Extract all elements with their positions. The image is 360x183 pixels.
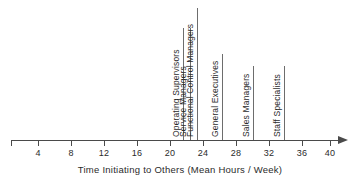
x-axis-arrowhead [338,136,348,144]
axis-tick [170,140,171,146]
axis-tick-label: 12 [92,148,116,158]
x-axis-line [11,140,342,141]
axis-tick-label: 8 [59,148,83,158]
axis-tick-label: 32 [257,148,281,158]
axis-tick [236,140,237,146]
axis-tick-label: 4 [26,148,50,158]
axis-tick [137,140,138,146]
axis-tick [203,140,204,146]
axis-tick [71,140,72,146]
axis-tick-label: 20 [158,148,182,158]
category-leader-line [284,66,285,140]
axis-tick [38,140,39,146]
axis-tick [104,140,105,146]
category-leader-line [197,8,198,140]
category-leader-line [222,54,223,140]
axis-tick [269,140,270,146]
axis-tick-label: 40 [318,148,342,158]
axis-tick-label: 24 [191,148,215,158]
category-label-staff-specialists: Staff Specialists [273,74,282,137]
category-label-functional-control-managers: Functional Control Managers [186,24,195,137]
category-leader-line [253,66,254,140]
axis-tick [302,140,303,146]
category-label-sales-managers: Sales Managers [242,73,251,137]
axis-tick [330,140,331,146]
axis-origin-tick [11,140,12,146]
x-axis-title: Time Initiating to Others (Mean Hours / … [0,164,360,176]
axis-tick-label: 28 [224,148,248,158]
axis-tick-label: 36 [290,148,314,158]
category-label-general-executives: General Executives [211,61,220,137]
chart-canvas: 4 8 12 16 20 24 28 32 36 40 Operating Su… [0,0,360,183]
axis-tick-label: 16 [125,148,149,158]
